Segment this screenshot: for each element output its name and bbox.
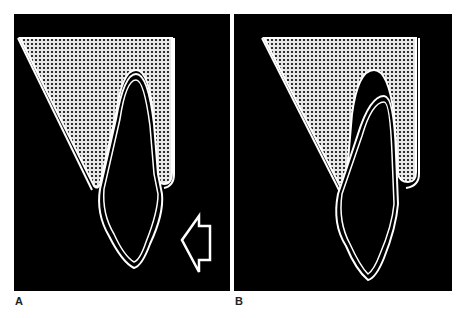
panel-a [14, 14, 230, 291]
panel-label-a: A [15, 295, 23, 307]
panel-label-b: B [235, 295, 243, 307]
tooth-diagram-a [14, 14, 230, 291]
force-arrow-icon [182, 216, 210, 272]
panel-b [234, 14, 452, 291]
tooth-diagram-b [234, 14, 452, 291]
